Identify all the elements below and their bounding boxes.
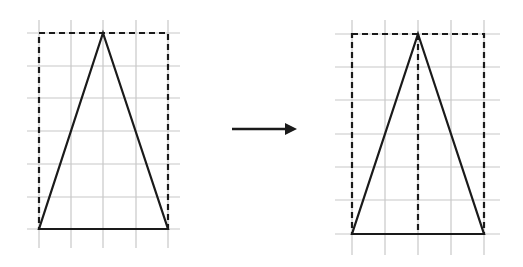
right-figure-transformed xyxy=(335,20,500,255)
arrow-head-icon xyxy=(285,123,297,135)
transformation-arrow xyxy=(232,123,297,135)
left-figure-original xyxy=(27,20,180,248)
diagram-canvas xyxy=(0,0,523,267)
